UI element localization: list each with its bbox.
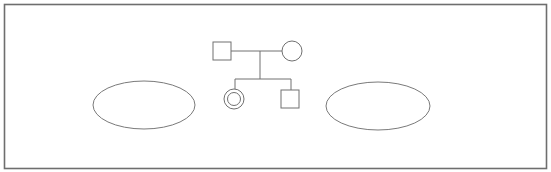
left-ellipse (93, 81, 195, 129)
mother-circle-icon (282, 41, 302, 61)
daughter-double-circle-icon (224, 89, 244, 109)
pedigree-diagram (0, 0, 551, 172)
son-square-icon (281, 90, 299, 108)
right-ellipse (326, 82, 430, 130)
pedigree-lines (231, 51, 291, 90)
father-square-icon (213, 42, 231, 60)
diagram-frame (5, 5, 547, 169)
